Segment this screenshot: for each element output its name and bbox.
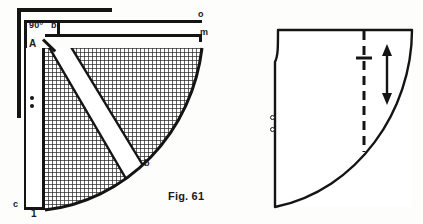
- label-point-o: o: [198, 10, 204, 19]
- notch-lower-dot: [30, 104, 34, 108]
- pattern-piece-outline: [228, 0, 423, 224]
- label-point-arc: b: [144, 159, 150, 168]
- top-allowance-strip: [45, 23, 202, 37]
- label-point-a: A: [29, 39, 37, 49]
- top-measure-bracket: [19, 8, 112, 12]
- label-point-m: m: [200, 28, 208, 37]
- right-diagram: [228, 0, 423, 224]
- label-right-angle: 90°: [29, 21, 44, 30]
- notch-upper-dot: [30, 96, 34, 100]
- left-allowance-strip: [26, 48, 45, 210]
- tick-mark-b: [57, 23, 60, 37]
- notch-upper-dot: [270, 115, 275, 120]
- figure-page: 90° b A o m c 1 b Fig. 61: [0, 0, 423, 224]
- label-point-c: c: [13, 200, 18, 209]
- figure-caption: Fig. 61: [168, 190, 204, 202]
- notch-lower-dot: [270, 127, 275, 132]
- label-point-b: b: [51, 21, 57, 30]
- label-point-1: 1: [31, 209, 37, 219]
- left-measure-bracket: [17, 8, 21, 118]
